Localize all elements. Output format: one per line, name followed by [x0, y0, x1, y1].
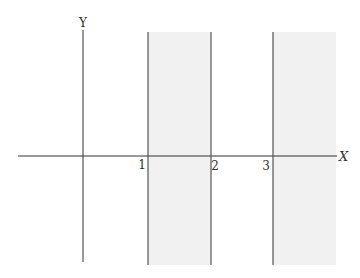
shaded-region-right-of-3 [273, 32, 336, 265]
coordinate-diagram: Y X 1 2 3 [0, 0, 360, 278]
y-axis-label: Y [78, 16, 88, 30]
tick-label-1: 1 [138, 158, 146, 172]
tick-label-2: 2 [211, 159, 219, 173]
tick-label-3: 3 [262, 159, 270, 173]
shaded-region-1-to-2 [148, 32, 211, 265]
x-axis-label: X [338, 149, 349, 164]
